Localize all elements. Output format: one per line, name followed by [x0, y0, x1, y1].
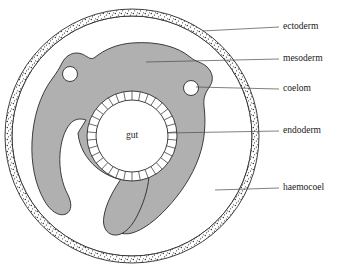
label-endoderm: endoderm [283, 125, 322, 135]
coelom-left [63, 67, 78, 82]
label-mesoderm: mesoderm [283, 53, 323, 63]
label-coelom: coelom [283, 83, 312, 93]
coelom-right [184, 81, 199, 96]
label-haemocoel: haemocoel [283, 182, 325, 192]
body-cross-section-diagram: gut ectoderm mesoderm coelom endoderm ha… [0, 0, 339, 277]
diagram-canvas: gut ectoderm mesoderm coelom endoderm ha… [0, 0, 339, 277]
gut-label: gut [126, 130, 139, 140]
label-ectoderm: ectoderm [283, 21, 319, 31]
